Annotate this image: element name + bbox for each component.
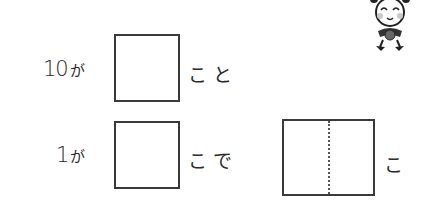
row-1-particle: が: [70, 62, 85, 80]
row-2-suffix: こで: [188, 146, 238, 173]
row-1-number: 10: [43, 57, 68, 81]
mascot-illustration: [368, 0, 412, 54]
digit-divider: [328, 121, 330, 194]
row-2-label: 1が: [56, 145, 85, 166]
row-2-number: 1: [56, 143, 68, 167]
smiling-ant-mascot-icon: [368, 0, 412, 54]
result-suffix: こ: [384, 150, 409, 177]
ones-answer-box[interactable]: [114, 121, 180, 189]
row-1-label: 10が: [43, 59, 85, 80]
row-1-suffix: こと: [188, 60, 238, 87]
row-2-particle: が: [70, 148, 85, 166]
total-answer-box[interactable]: [282, 119, 375, 196]
tens-answer-box[interactable]: [114, 34, 180, 102]
